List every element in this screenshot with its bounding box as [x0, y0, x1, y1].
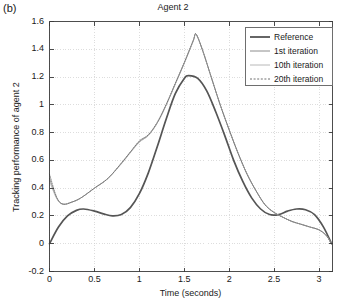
figure: (b) Agent 2 Reference1st iteration10th i…	[0, 0, 346, 304]
legend-label: 1st iteration	[274, 46, 318, 56]
legend-label: 10th iteration	[274, 60, 323, 70]
legend-item: 10th iteration	[246, 58, 332, 72]
y-tick-label: 0.6	[14, 154, 44, 164]
y-tick-label: 1.4	[14, 43, 44, 53]
legend-line-sample	[249, 74, 271, 84]
x-tick-label: 2	[214, 274, 244, 284]
legend-label: 20th iteration	[274, 74, 323, 84]
legend-label: Reference	[274, 32, 313, 42]
y-tick-label: -0.2	[14, 266, 44, 276]
legend-item: 1st iteration	[246, 44, 332, 58]
x-tick-label: 1.5	[169, 274, 199, 284]
legend-item: 20th iteration	[246, 72, 332, 86]
x-axis-label: Time (seconds)	[49, 288, 332, 298]
x-tick-label: 0	[35, 274, 65, 284]
y-tick-label: 1	[14, 99, 44, 109]
x-tick-label: 3	[304, 274, 334, 284]
y-tick-label: 0.4	[14, 182, 44, 192]
legend-line-sample	[249, 32, 271, 42]
y-tick-label: 1.2	[14, 71, 44, 81]
y-tick-label: 0.8	[14, 127, 44, 137]
x-tick-label: 0.5	[79, 274, 109, 284]
y-tick-label: 0.2	[14, 210, 44, 220]
series-line-1	[50, 76, 332, 244]
legend: Reference1st iteration10th iteration20th…	[245, 27, 333, 86]
y-tick-label: 1.6	[14, 16, 44, 26]
y-tick-label: 0	[14, 238, 44, 248]
x-tick-label: 2.5	[259, 274, 289, 284]
legend-line-sample	[249, 46, 271, 56]
x-tick-label: 1	[124, 274, 154, 284]
legend-line-sample	[249, 60, 271, 70]
legend-item: Reference	[246, 30, 332, 44]
